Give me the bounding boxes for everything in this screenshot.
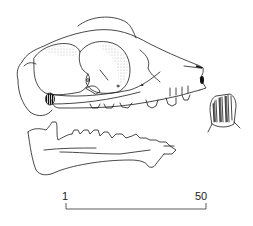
- skull-illustration: 1 50: [0, 0, 253, 226]
- scale-bar: [66, 203, 206, 209]
- nasal-opening: [200, 76, 204, 84]
- scale-end-label: 50: [195, 191, 207, 202]
- scale-start-label: 1: [62, 191, 68, 202]
- ear-canal: [46, 93, 55, 105]
- skull-drawing: [0, 0, 253, 226]
- mandible: [28, 122, 176, 175]
- incisor-detail: [208, 94, 240, 132]
